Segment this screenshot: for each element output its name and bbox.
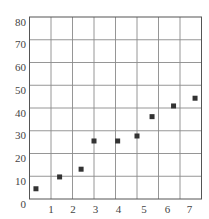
y-axis-tick-labels: 01020304050607080 — [15, 16, 27, 210]
y-tick-label: 60 — [15, 61, 27, 73]
y-tick-label: 0 — [21, 198, 27, 210]
data-point-marker — [33, 186, 38, 191]
x-axis-tick-labels: 1234567 — [48, 203, 193, 215]
data-point-marker — [150, 114, 155, 119]
x-tick-label: 4 — [116, 203, 122, 215]
data-point-marker — [135, 133, 140, 138]
x-tick-label: 1 — [48, 203, 54, 215]
data-point-marker — [92, 138, 97, 143]
x-tick-label: 5 — [141, 203, 147, 215]
data-point-marker — [171, 103, 176, 108]
y-tick-label: 10 — [15, 175, 27, 187]
y-tick-label: 30 — [15, 129, 27, 141]
y-tick-label: 50 — [15, 84, 27, 96]
scatter-chart: 1234567 01020304050607080 — [0, 0, 209, 219]
data-point-marker — [193, 96, 198, 101]
x-tick-label: 6 — [165, 203, 171, 215]
y-tick-label: 40 — [15, 107, 27, 119]
y-tick-label: 80 — [15, 16, 27, 28]
y-tick-label: 20 — [15, 152, 27, 164]
y-tick-label: 70 — [15, 38, 27, 50]
x-tick-label: 3 — [93, 203, 99, 215]
data-point-marker — [115, 138, 120, 143]
x-tick-label: 2 — [70, 203, 76, 215]
data-point-marker — [57, 174, 62, 179]
x-tick-label: 7 — [187, 203, 193, 215]
data-point-marker — [79, 167, 84, 172]
